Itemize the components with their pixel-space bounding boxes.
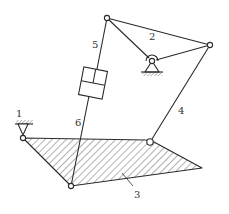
joint-b [207,42,212,47]
label-link-6: 6 [75,117,81,128]
label-link-4: 4 [178,105,184,116]
label-link-2: 2 [149,31,155,42]
joint-d [68,183,73,188]
label-link-5: 5 [92,39,98,50]
label-link-3: 3 [134,189,140,200]
joint-c [149,58,154,63]
cylinder-block [79,67,108,99]
mechanism-diagram: 1 2 3 4 5 6 [0,0,229,214]
joint-a [104,15,109,20]
link-2-ternary [107,18,210,60]
joint-e [147,139,153,145]
joint-o1 [20,135,25,140]
link-3-plate [23,138,202,186]
label-link-1: 1 [16,108,22,119]
ground-support-1 [15,120,33,135]
link-5-rod [97,18,107,69]
